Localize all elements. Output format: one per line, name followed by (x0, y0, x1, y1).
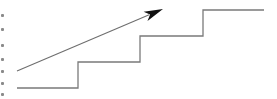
edge-text-fragment (1, 70, 4, 73)
edge-text-fragment (1, 82, 4, 85)
staircase-line (17, 10, 264, 88)
staircase-diagram (0, 0, 277, 99)
edge-text-fragment (1, 44, 4, 47)
arrow-head-icon (144, 9, 163, 21)
edge-text-fragment (1, 14, 4, 17)
edge-text-fragment (1, 93, 4, 96)
cropped-edge-text-fragments (0, 0, 6, 99)
diagram-canvas (0, 0, 277, 99)
edge-text-fragment (1, 58, 4, 61)
edge-text-fragment (1, 28, 4, 31)
